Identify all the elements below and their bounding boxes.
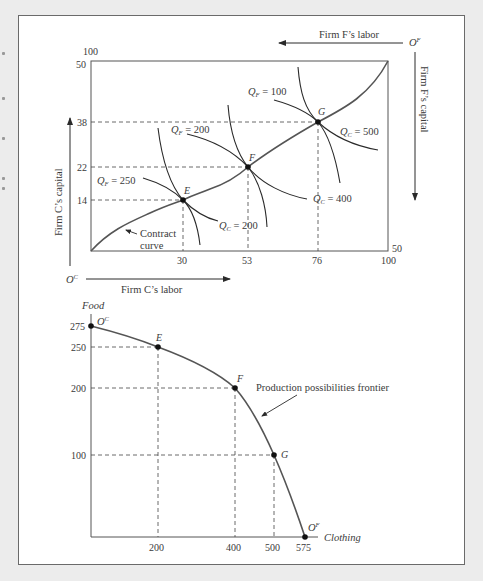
label-qf200: QF = 200 [171, 124, 210, 136]
label-qf250: QF = 250 [97, 175, 136, 187]
food-tick-275: 275 [70, 321, 85, 332]
label-g: G [318, 106, 325, 117]
food-axis-label: Food [81, 300, 105, 311]
x-tick-30: 30 [177, 255, 187, 266]
ppf-curve [91, 326, 305, 537]
ppf-point-oc [88, 323, 94, 329]
ppf-label: Production possibilities frontier [256, 382, 389, 393]
label-qc400: QC = 400 [313, 193, 352, 205]
isoquant-qc400 [228, 105, 307, 199]
isoquant-qc500 [298, 67, 378, 150]
ppf-point-of [302, 534, 308, 540]
clothing-tick-400: 400 [226, 542, 241, 553]
label-qc200: QC = 200 [219, 220, 258, 232]
ppf-label-f: F [236, 373, 244, 384]
label-qc500: QC = 500 [340, 126, 379, 138]
ppf-point-f [232, 385, 238, 391]
top-left-100: 100 [83, 46, 98, 57]
contract-curve-arrow-icon [126, 230, 137, 234]
contract-curve-label-2: curve [140, 240, 164, 251]
c-labor-label: Firm C’s labor [121, 284, 183, 295]
c-capital-label: Firm C’s capital [53, 168, 64, 236]
label-qf100: QF = 100 [248, 86, 287, 98]
f-capital-label: Firm F’s capital [419, 66, 430, 133]
origin-c-lower: OC [97, 315, 110, 327]
label-e: E [183, 185, 190, 196]
clothing-tick-575: 575 [296, 542, 311, 553]
y-tick-50: 50 [76, 59, 86, 70]
clothing-tick-500: 500 [265, 542, 280, 553]
clothing-tick-200: 200 [149, 542, 164, 553]
figure-svg: E F G QF = 250 QF = 200 QF = 100 QC = 20… [0, 0, 483, 581]
contract-curve-label-1: Contract [140, 228, 176, 239]
point-e [180, 197, 186, 203]
edgeworth-box: E F G QF = 250 QF = 200 QF = 100 QC = 20… [53, 29, 430, 295]
point-g [315, 119, 321, 125]
y-tick-14: 14 [77, 195, 87, 206]
x-tick-53: 53 [242, 255, 252, 266]
ppf-point-g [271, 452, 277, 458]
origin-f-lower: OF [308, 521, 321, 533]
bottom-right-50: 50 [392, 243, 402, 254]
ppf-label-g: G [281, 449, 288, 460]
ppf-points [88, 323, 308, 540]
label-f: F [248, 152, 256, 163]
x-tick-76: 76 [312, 255, 322, 266]
point-f [245, 164, 251, 170]
origin-f-upper: OF [409, 36, 422, 48]
ppf-dashed-guides [91, 347, 274, 537]
y-tick-38: 38 [77, 117, 87, 128]
food-tick-100: 100 [71, 450, 86, 461]
dashed-guides [91, 122, 318, 251]
ppf-arrow-icon [262, 395, 297, 416]
y-tick-22: 22 [77, 162, 87, 173]
x-tick-100: 100 [381, 255, 396, 266]
food-tick-200: 200 [71, 383, 86, 394]
ppf-point-e [155, 344, 161, 350]
ppf-label-e: E [155, 332, 162, 343]
food-tick-250: 250 [71, 342, 86, 353]
clothing-axis-label: Clothing [324, 532, 361, 543]
ppf-chart: Food Clothing OC E F G OF Production pos… [70, 300, 389, 553]
origin-c-upper: OC [66, 273, 79, 285]
f-labor-label: Firm F’s labor [319, 29, 380, 40]
